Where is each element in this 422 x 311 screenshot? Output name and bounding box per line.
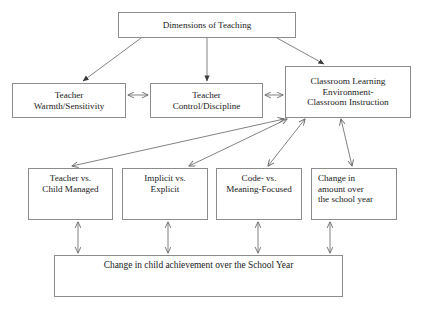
node-code-vs-meaning-focused[interactable]: Code- vs. Meaning-Focused [216,168,302,220]
edge-classroom-to-amount [341,119,352,166]
node-label: Implicit vs. Explicit [144,173,185,194]
node-change-in-amount-over-school-year[interactable]: Change in amount over the school year [311,168,397,220]
node-teacher-vs-child-managed[interactable]: Teacher vs. Child Managed [28,168,113,220]
node-label: Teacher Control/Discipline [173,90,241,111]
edge-dimensions-to-warmth [83,38,141,81]
node-change-in-child-achievement[interactable]: Change in child achievement over the Sch… [54,255,343,297]
node-label: Teacher vs. Child Managed [42,173,98,194]
edge-classroom-to-managed [72,119,284,166]
diagram-canvas: Dimensions of Teaching Teacher Warmth/Se… [0,0,422,311]
node-label: Change in amount over the school year [318,173,373,205]
edge-classroom-to-code [268,119,305,166]
node-dimensions-of-teaching[interactable]: Dimensions of Teaching [118,12,296,38]
node-label: Dimensions of Teaching [163,20,252,31]
node-label: Classroom Learning Environment- Classroo… [307,76,388,109]
node-label: Change in child achievement over the Sch… [104,260,294,271]
edge-classroom-to-implicit [189,119,287,166]
node-teacher-warmth-sensitivity[interactable]: Teacher Warmth/Sensitivity [12,83,126,118]
node-label: Teacher Warmth/Sensitivity [34,90,105,111]
edge-dimensions-to-classroom [277,38,324,64]
node-classroom-learning-environment[interactable]: Classroom Learning Environment- Classroo… [285,66,411,118]
node-label: Code- vs. Meaning-Focused [226,173,292,194]
node-teacher-control-discipline[interactable]: Teacher Control/Discipline [150,83,263,118]
node-implicit-vs-explicit[interactable]: Implicit vs. Explicit [122,168,208,220]
